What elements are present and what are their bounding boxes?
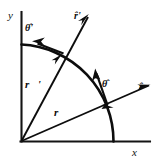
r-vector-label: r⃗: [54, 106, 67, 118]
r-primed-arrowhead-at-arc: [52, 54, 62, 64]
axes-group: [21, 12, 151, 142]
polar-unit-vector-diagram: y x r⃗ r⃗' r̂ r̂' θ̂ θ̂': [0, 0, 160, 162]
constant-radius-arc: [22, 45, 114, 142]
r-vector-shaft: [22, 86, 150, 142]
theta-hat-primed-label: θ̂': [25, 22, 33, 33]
diagram-canvas: y x r⃗ r⃗' r̂ r̂' θ̂ θ̂': [0, 0, 160, 162]
y-axis-label: y: [7, 9, 13, 21]
position-vector-r: [22, 84, 151, 141]
x-axis-label: x: [131, 146, 137, 158]
r-hat-primed-label: r̂': [74, 10, 81, 21]
theta-hat-label: θ̂: [102, 78, 110, 89]
r-primed-vector-label: r⃗': [25, 78, 41, 90]
